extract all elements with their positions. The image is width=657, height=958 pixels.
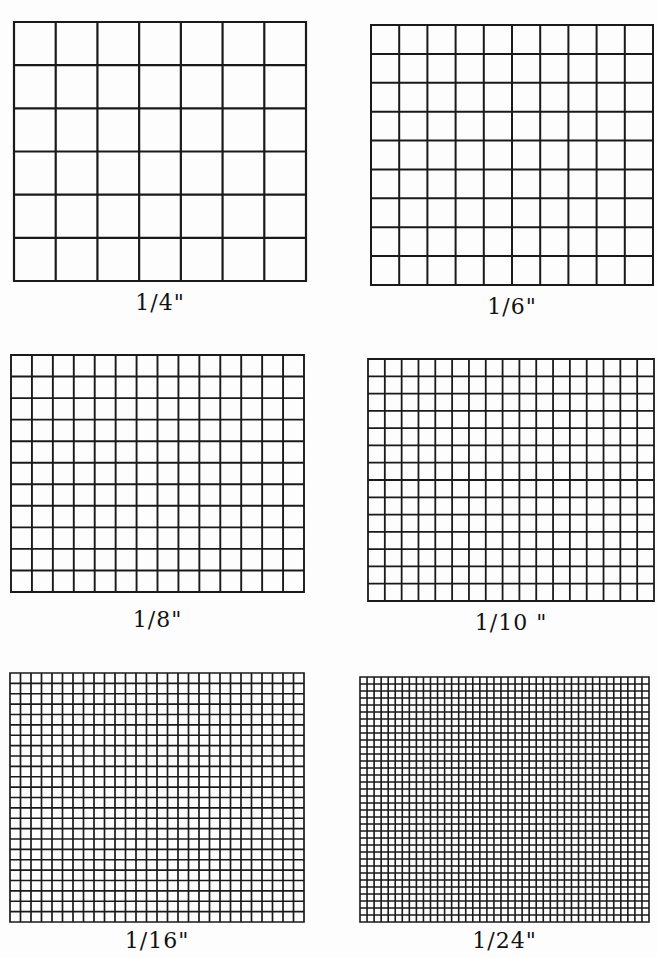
grid-tenth-inch <box>365 356 657 604</box>
grid-label-twentyfourth-inch: 1/24" <box>360 928 649 953</box>
grid-label-eighth-inch: 1/8" <box>11 607 304 632</box>
grid-label-tenth-inch: 1/10 " <box>368 610 654 635</box>
grid-eighth-inch <box>8 352 307 595</box>
grid-label-sixth-inch: 1/6" <box>371 294 653 319</box>
grid-twentyfourth-inch <box>357 674 652 925</box>
grid-quarter-inch <box>11 19 309 284</box>
grid-label-sixteenth-inch: 1/16" <box>10 928 304 953</box>
grid-sixth-inch <box>368 22 656 288</box>
grid-sixteenth-inch <box>7 670 307 925</box>
grid-label-quarter-inch: 1/4" <box>14 290 306 315</box>
